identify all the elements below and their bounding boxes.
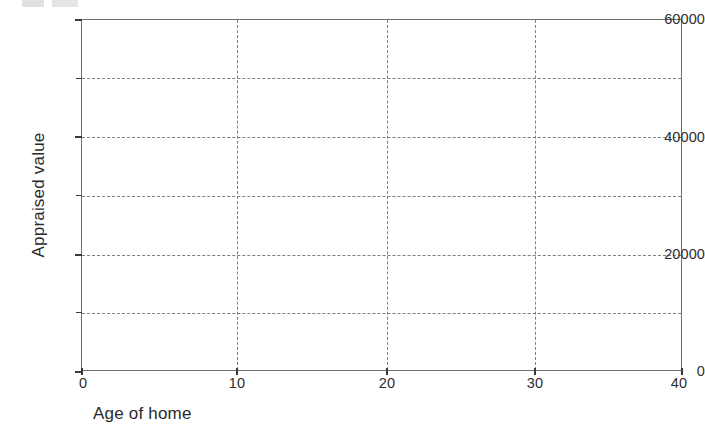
y-tick-label-40000: 40000 [633,130,705,145]
y-tick-50000 [76,78,82,79]
x-tick-label-0: 0 [79,376,87,391]
y-tick-30000 [76,195,82,196]
y-tick-20000 [75,254,82,256]
data-points-layer [82,20,681,370]
x-tick-10 [236,368,238,375]
y-tick-label-20000: 20000 [633,247,705,262]
scatter-chart: 60000 40000 20000 0 0 10 20 30 40 Apprai… [0,0,705,435]
y-tick-label-0: 0 [633,364,705,379]
x-tick-0 [81,368,83,375]
x-tick-label-20: 20 [379,376,395,391]
plot-area [81,19,682,371]
x-tick-label-40: 40 [671,376,687,391]
x-tick-40 [681,368,683,375]
y-tick-60000 [75,19,82,21]
x-tick-label-10: 10 [229,376,245,391]
x-axis-title: Age of home [93,404,192,424]
x-tick-label-30: 30 [527,376,543,391]
x-tick-30 [534,368,536,375]
y-tick-40000 [75,136,82,138]
y-tick-label-60000: 60000 [633,12,705,27]
y-axis-title: Appraised value [26,19,52,371]
x-tick-20 [386,368,388,375]
y-tick-10000 [76,312,82,313]
